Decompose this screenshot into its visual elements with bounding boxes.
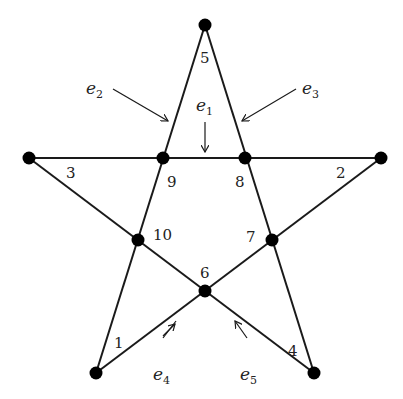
arrow-e4-shaft [163,321,176,338]
node-left [23,152,36,165]
node-top [199,19,212,32]
arrow-e3 [242,89,296,121]
node-7 [266,234,279,247]
label-10: 10 [153,226,172,244]
edges [29,25,381,373]
star-diagram: 5 3 2 9 8 10 7 6 1 4 e1 e2 e3 e4 e5 [0,0,403,399]
edge-top-br [205,25,314,373]
arrow-e2 [113,89,168,121]
node-bl [90,367,103,380]
label-7: 7 [246,228,256,246]
edge-top-bl [96,25,205,373]
node-8 [239,152,252,165]
arrows [113,89,296,338]
label-8: 8 [235,173,245,191]
label-9: 9 [167,173,177,191]
label-5: 5 [200,49,210,67]
node-right [375,152,388,165]
label-e2: e2 [86,78,103,101]
nodes [23,19,388,380]
node-9 [157,152,170,165]
label-3: 3 [66,164,76,182]
label-4: 4 [288,342,298,360]
label-2: 2 [336,164,346,182]
arrow-e5 [235,321,247,338]
label-e3: e3 [302,78,319,101]
label-1: 1 [114,334,124,352]
node-6 [199,285,212,298]
label-e4: e4 [153,364,170,387]
node-br [308,367,321,380]
node-10 [132,234,145,247]
label-e1: e1 [196,95,213,118]
label-e5: e5 [240,364,257,387]
label-6: 6 [200,264,210,282]
